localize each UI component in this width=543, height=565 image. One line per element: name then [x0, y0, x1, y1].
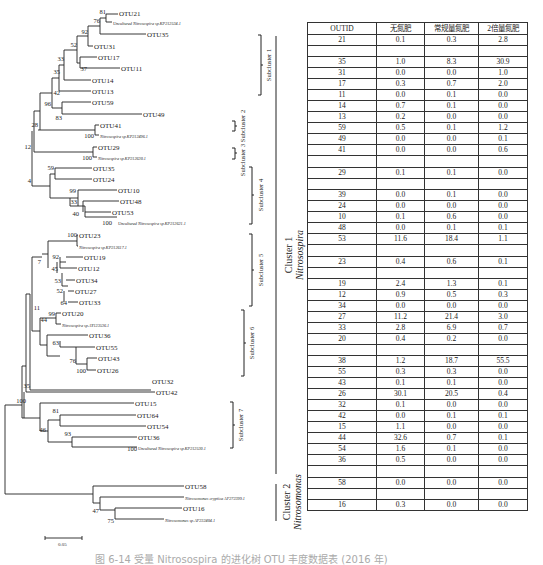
bootstrap-value: 92: [53, 253, 60, 260]
subcluster-label: Subcluster 3: [239, 144, 246, 176]
cell-otuid: [308, 344, 377, 355]
cell-double-nitrogen: 0.1: [479, 223, 528, 234]
table-header-row: OUTID 无氮肥 常规量氮肥 2倍量氮肥: [308, 23, 528, 35]
bootstrap-value: 64: [61, 299, 68, 306]
cell-otuid: 35: [308, 57, 377, 68]
leaf-label: OTU48: [120, 198, 142, 206]
cell-no-nitrogen: 0.0: [377, 477, 425, 488]
subcluster-label: Subcluster 5: [257, 254, 264, 286]
cell-double-nitrogen: 0.0: [479, 367, 528, 378]
cell-double-nitrogen: [479, 267, 528, 278]
subcluster-label: Subcluster 2: [239, 110, 246, 142]
cell-regular-nitrogen: 0.0: [425, 300, 479, 311]
cell-no-nitrogen: 1.2: [377, 356, 425, 367]
cell-regular-nitrogen: 0.0: [425, 145, 479, 156]
subcluster-label: Subcluster 7: [237, 408, 244, 441]
bootstrap-value: 52: [57, 287, 64, 294]
table-row: 490.00.00.1: [308, 134, 528, 145]
leaf-label: OTU20: [62, 310, 84, 318]
cell-otuid: [308, 466, 377, 477]
cluster-genus-label: Nitrosomonas: [292, 474, 303, 531]
cell-no-nitrogen: 0.0: [377, 68, 425, 79]
cluster-label: Cluster 2: [281, 484, 292, 520]
cell-no-nitrogen: 0.9: [377, 289, 425, 300]
cell-otuid: 17: [308, 79, 377, 90]
bootstrap-value: 100: [16, 397, 26, 404]
cell-no-nitrogen: 11.2: [377, 311, 425, 322]
cell-double-nitrogen: 0.0: [479, 300, 528, 311]
cell-double-nitrogen: [479, 245, 528, 256]
table-row: 580.00.00.0: [308, 477, 528, 488]
leaf-label: OTU12: [78, 265, 100, 273]
cell-otuid: 38: [308, 356, 377, 367]
table-row: 332.86.90.7: [308, 322, 528, 333]
leaf-label: OTU27: [75, 288, 97, 296]
table-row: 200.40.20.0: [308, 333, 528, 344]
cell-double-nitrogen: 0.1: [479, 433, 528, 444]
table-body: 210.10.32.8351.08.330.9310.00.01.0170.30…: [308, 35, 528, 511]
cell-otuid: 12: [308, 289, 377, 300]
cell-otuid: 23: [308, 256, 377, 267]
bootstrap-value: 81: [53, 407, 60, 414]
cell-no-nitrogen: 0.1: [377, 378, 425, 389]
cell-otuid: 39: [308, 190, 377, 201]
leaf-label: OTU58: [185, 483, 207, 491]
cell-double-nitrogen: 0.0: [479, 167, 528, 178]
cell-no-nitrogen: 2.8: [377, 322, 425, 333]
cell-regular-nitrogen: 0.1: [425, 444, 479, 455]
cell-double-nitrogen: 0.0: [479, 422, 528, 433]
table-row: 340.00.00.0: [308, 300, 528, 311]
table-row: 360.50.00.0: [308, 455, 528, 466]
leaf-label: OTU59: [92, 99, 114, 107]
cell-otuid: 55: [308, 367, 377, 378]
cell-regular-nitrogen: 0.0: [425, 477, 479, 488]
cell-no-nitrogen: [377, 466, 425, 477]
cell-double-nitrogen: 0.1: [479, 411, 528, 422]
cluster-labels: Cluster 1 Nitrosospira Cluster 2 Nitroso…: [281, 230, 305, 531]
cell-otuid: 14: [308, 101, 377, 112]
table-row: [308, 178, 528, 189]
bootstrap-value: 100: [84, 132, 94, 139]
cell-double-nitrogen: 0.0: [479, 212, 528, 223]
bootstrap-value: 28: [32, 121, 39, 128]
leaf-label: OTU41: [100, 122, 122, 130]
header-otuid: OUTID: [308, 23, 377, 35]
subcluster-label: Subcluster 1: [265, 49, 272, 81]
cell-no-nitrogen: 32.6: [377, 433, 425, 444]
leaf-label: OTU49: [143, 111, 165, 119]
bootstrap-value: 96: [45, 100, 52, 107]
cell-regular-nitrogen: 0.3: [425, 35, 479, 46]
cell-otuid: 10: [308, 212, 377, 223]
cell-no-nitrogen: 0.1: [377, 167, 425, 178]
cell-regular-nitrogen: 0.1: [425, 123, 479, 134]
bootstrap-value: 45: [52, 265, 59, 272]
cell-regular-nitrogen: 0.1: [425, 167, 479, 178]
cell-regular-nitrogen: 0.6: [425, 212, 479, 223]
cell-regular-nitrogen: 0.0: [425, 500, 479, 511]
cell-regular-nitrogen: 0.1: [425, 190, 479, 201]
cell-double-nitrogen: 0.0: [479, 101, 528, 112]
table-row: 390.00.10.0: [308, 190, 528, 201]
cell-otuid: 49: [308, 134, 377, 145]
cell-double-nitrogen: 0.0: [479, 455, 528, 466]
table-row: [308, 488, 528, 499]
cell-otuid: 41: [308, 145, 377, 156]
cell-regular-nitrogen: 0.1: [425, 411, 479, 422]
cell-double-nitrogen: 0.1: [479, 278, 528, 289]
table-row: 140.70.10.0: [308, 101, 528, 112]
cell-no-nitrogen: 0.7: [377, 101, 425, 112]
bootstrap-value: 35: [24, 382, 31, 389]
cell-double-nitrogen: 1.2: [479, 123, 528, 134]
cell-double-nitrogen: 0.0: [479, 378, 528, 389]
cell-double-nitrogen: 0.0: [479, 444, 528, 455]
cell-otuid: 19: [308, 278, 377, 289]
bootstrap-value: 44: [41, 316, 48, 323]
cell-double-nitrogen: 0.0: [479, 190, 528, 201]
bootstrap-value: 11: [34, 304, 40, 311]
cell-otuid: 48: [308, 223, 377, 234]
cell-double-nitrogen: 0.3: [479, 289, 528, 300]
leaf-label: OTU34: [76, 277, 98, 285]
leaf-label: OTU43: [98, 355, 120, 363]
table-row: 351.08.330.9: [308, 57, 528, 68]
cell-regular-nitrogen: 6.9: [425, 322, 479, 333]
